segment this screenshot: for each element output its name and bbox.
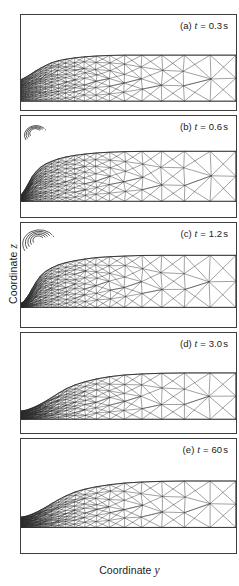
panel-d-tag: (d): [180, 338, 192, 349]
panel-a-unit: s: [223, 20, 228, 31]
panel-a-eq: =: [198, 20, 209, 31]
panel-b-tag: (b): [180, 121, 192, 132]
panel-b-value: 0.6: [209, 121, 223, 132]
x-axis-label-text: Coordinate: [99, 564, 154, 576]
panel-c: (c) t = 1.2 s: [20, 222, 237, 328]
panel-d-unit: s: [223, 338, 228, 349]
panel-a-value: 0.3: [209, 20, 223, 31]
panel-e-tag: (e): [183, 444, 195, 455]
y-axis-variable: z: [7, 244, 19, 249]
panel-b-label: (b) t = 0.6 s: [180, 121, 228, 132]
y-axis-label-text: Coordinate: [7, 249, 19, 304]
panel-c-eq: =: [198, 228, 209, 239]
panel-c-label: (c) t = 1.2 s: [180, 228, 228, 239]
panel-a-label: (a) t = 0.3 s: [180, 20, 228, 31]
panel-d-eq: =: [198, 338, 209, 349]
panel-e-label: (e) t = 60 s: [183, 444, 228, 455]
panel-e-eq: =: [200, 444, 211, 455]
panel-b: (b) t = 0.6 s: [20, 115, 237, 218]
panel-e: (e) t = 60 s: [20, 438, 237, 554]
x-axis-variable: y: [155, 564, 160, 576]
x-axis-label: Coordinate y: [20, 564, 239, 576]
y-axis-label: Coordinate z: [7, 214, 19, 334]
panel-d: (d) t = 3.0 s: [20, 332, 237, 434]
panel-b-unit: s: [223, 121, 228, 132]
figure-container: Coordinate z (a) t = 0.3 s (b) t = 0.6 s…: [0, 0, 239, 586]
panel-a-tag: (a): [180, 20, 192, 31]
panel-c-value: 1.2: [209, 228, 223, 239]
panel-d-value: 3.0: [209, 338, 223, 349]
panel-c-tag: (c): [180, 228, 191, 239]
panel-e-value: 60: [211, 444, 222, 455]
panel-a: (a) t = 0.3 s: [20, 14, 237, 111]
panel-c-unit: s: [223, 228, 228, 239]
panel-e-unit: s: [223, 444, 228, 455]
panel-b-eq: =: [198, 121, 209, 132]
panel-d-label: (d) t = 3.0 s: [180, 338, 228, 349]
panel-e-mesh: [21, 439, 236, 553]
